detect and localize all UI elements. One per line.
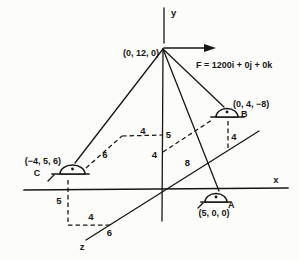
x-axis-label: x (273, 174, 279, 185)
apex-coordinate-label: (0, 12, 0) (123, 48, 159, 58)
z-axis (86, 131, 259, 240)
dim-b-y-height: 4 (231, 131, 237, 142)
point-B-name: B (241, 109, 248, 119)
support-C-hatch (48, 175, 54, 181)
support-B-pin-dot (226, 111, 229, 114)
figure-svg: y x z (0, 12, 0) F = 1200i + 0j + 0k (−4… (0, 0, 299, 260)
y-axis-label: y (171, 7, 177, 18)
force-equation-label: F = 1200i + 0j + 0k (196, 60, 273, 70)
dim-b-z-offset: 8 (185, 157, 190, 168)
leg-apex-to-B (163, 49, 224, 107)
z-axis-label: z (80, 241, 85, 252)
point-C-name: C (34, 168, 41, 178)
point-C-coords: (−4, 5, 6) (25, 156, 61, 166)
support-A-pin-dot (215, 196, 218, 199)
dim-y-height-4: 4 (152, 149, 158, 160)
statics-figure: y x z (0, 12, 0) F = 1200i + 0j + 0k (−4… (0, 0, 299, 260)
support-B (211, 109, 244, 118)
leg-apex-to-A (163, 49, 219, 191)
leg-apex-to-C (75, 49, 163, 163)
dim-c-z-offset: 6 (102, 149, 107, 160)
point-A-coords: (5, 0, 0) (198, 208, 229, 218)
dim-c-drop-z: 6 (107, 227, 112, 238)
support-C (48, 165, 89, 181)
dim-y-height-5: 5 (166, 129, 172, 140)
point-B-coords: (0, 4, −8) (233, 99, 269, 109)
force-arrowhead (204, 44, 216, 52)
dim-c-drop-x: 4 (88, 211, 94, 222)
dim-c-x-offset: 4 (140, 125, 146, 136)
x-axis (24, 188, 288, 190)
support-A (198, 194, 231, 209)
support-C-pin-dot (71, 168, 74, 171)
dim-c-drop-y: 5 (56, 195, 62, 206)
